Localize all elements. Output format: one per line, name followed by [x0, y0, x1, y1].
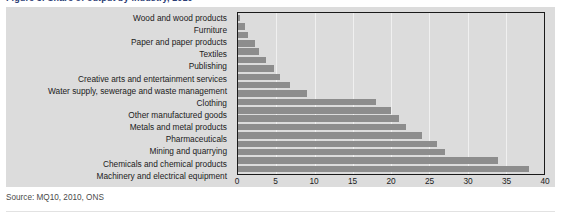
bar: [238, 115, 399, 121]
bottom-divider: [6, 211, 555, 212]
bar-row: [238, 56, 544, 64]
bar-row: [238, 123, 544, 131]
category-label: Metals and metal products: [6, 121, 232, 133]
bar-row: [238, 73, 544, 81]
category-label: Publishing: [6, 61, 232, 73]
category-label: Paper and paper products: [6, 36, 232, 48]
figure-panel: Wood and wood productsFurniturePaper and…: [6, 7, 555, 187]
bar: [238, 40, 255, 46]
bar: [238, 107, 391, 113]
bar: [238, 48, 259, 54]
bar-row: [238, 131, 544, 139]
x-tick-label: 35: [502, 176, 511, 186]
bar: [238, 149, 445, 155]
bar: [238, 132, 422, 138]
category-label: Pharmaceuticals: [6, 133, 232, 145]
bar: [238, 124, 406, 130]
bar: [238, 166, 529, 172]
bar-row: [238, 64, 544, 72]
bar-row: [238, 106, 544, 114]
source-note: Source: MQ10, 2010, ONS: [6, 193, 104, 202]
bar: [238, 65, 274, 71]
x-tick-label: 30: [463, 176, 472, 186]
x-tick-label: 0: [235, 176, 240, 186]
bar: [238, 23, 245, 29]
bar-row: [238, 14, 544, 22]
bar-row: [238, 89, 544, 97]
bar-row: [238, 148, 544, 156]
bar-row: [238, 31, 544, 39]
plot-area: [237, 12, 545, 175]
bar-row: [238, 22, 544, 30]
cutoff-heading-strip: Figure 3: Share of output by industry, 2…: [0, 0, 561, 6]
category-label: Other manufactured goods: [6, 109, 232, 121]
bar-row: [238, 81, 544, 89]
figure-heading: Figure 3: Share of output by industry, 2…: [6, 0, 193, 3]
category-label: Water supply, sewerage and waste managem…: [6, 85, 232, 97]
x-tick-label: 25: [425, 176, 434, 186]
bar: [238, 141, 437, 147]
bar-row: [238, 165, 544, 173]
bar-series: [238, 13, 544, 174]
bar-row: [238, 39, 544, 47]
category-label: Textiles: [6, 48, 232, 60]
bar-row: [238, 98, 544, 106]
x-tick-label: 20: [386, 176, 395, 186]
bar: [238, 82, 290, 88]
category-label: Creative arts and entertainment services: [6, 73, 232, 85]
bar: [238, 32, 248, 38]
bar: [238, 74, 280, 80]
bar: [238, 99, 376, 105]
category-label: Wood and wood products: [6, 12, 232, 24]
bar-row: [238, 115, 544, 123]
bar: [238, 57, 266, 63]
category-label: Machinery and electrical equipment: [6, 170, 232, 182]
category-label: Chemicals and chemical products: [6, 158, 232, 170]
bar-row: [238, 48, 544, 56]
bar-row: [238, 140, 544, 148]
x-tick-label: 15: [348, 176, 357, 186]
category-label: Mining and quarrying: [6, 146, 232, 158]
x-axis-ticks: 0510152025303540: [237, 176, 545, 189]
bar: [238, 15, 240, 21]
x-tick-label: 5: [273, 176, 278, 186]
category-label: Clothing: [6, 97, 232, 109]
bar-row: [238, 156, 544, 164]
bar: [238, 157, 498, 163]
category-label: Furniture: [6, 24, 232, 36]
x-tick-label: 40: [540, 176, 549, 186]
bar: [238, 90, 307, 96]
category-label-column: Wood and wood productsFurniturePaper and…: [6, 12, 232, 182]
x-tick-label: 10: [309, 176, 318, 186]
